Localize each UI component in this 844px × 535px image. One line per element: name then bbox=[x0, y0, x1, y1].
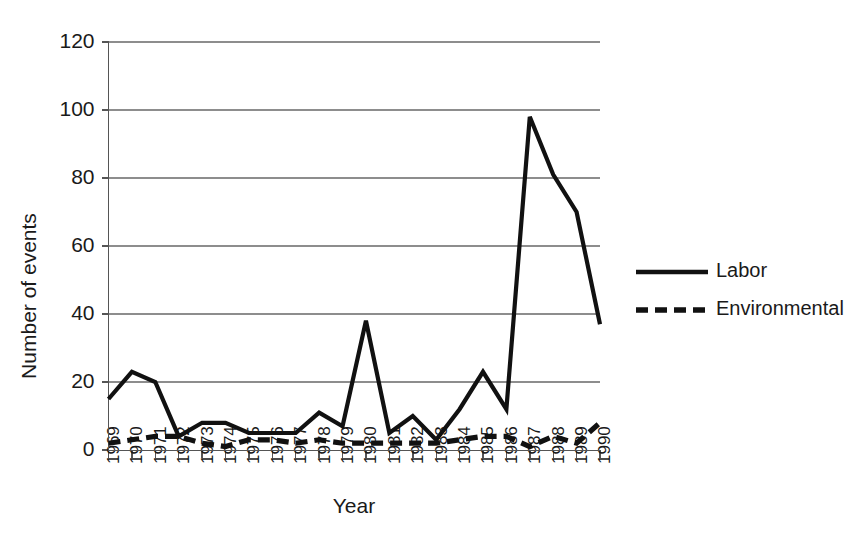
x-tick-label-1971: 1971 bbox=[151, 426, 170, 464]
y-tick-label-0: 0 bbox=[83, 437, 95, 460]
legend-label-environmental: Environmental bbox=[716, 297, 844, 319]
y-tick-label-100: 100 bbox=[59, 97, 94, 120]
x-tick-label-1988: 1988 bbox=[549, 426, 568, 464]
x-tick-label-1978: 1978 bbox=[315, 426, 334, 464]
y-tick-label-120: 120 bbox=[59, 29, 94, 52]
y-tick-label-40: 40 bbox=[71, 301, 94, 324]
y-tick-label-80: 80 bbox=[71, 165, 94, 188]
y-tick-label-60: 60 bbox=[71, 233, 94, 256]
y-tick-label-20: 20 bbox=[71, 369, 94, 392]
x-tick-label-1986: 1986 bbox=[502, 426, 521, 464]
x-tick-label-1985: 1985 bbox=[478, 426, 497, 464]
x-tick-label-1990: 1990 bbox=[595, 426, 614, 464]
line-chart-canvas: 020406080100120 196919701971197219731974… bbox=[0, 0, 844, 535]
legend-label-labor: Labor bbox=[716, 259, 767, 281]
x-tick-label-1970: 1970 bbox=[127, 426, 146, 464]
y-axis-title: Number of events bbox=[17, 213, 40, 379]
x-axis-title: Year bbox=[333, 494, 375, 517]
x-tick-label-1984: 1984 bbox=[455, 426, 474, 464]
chart-figure: 020406080100120 196919701971197219731974… bbox=[0, 0, 844, 535]
